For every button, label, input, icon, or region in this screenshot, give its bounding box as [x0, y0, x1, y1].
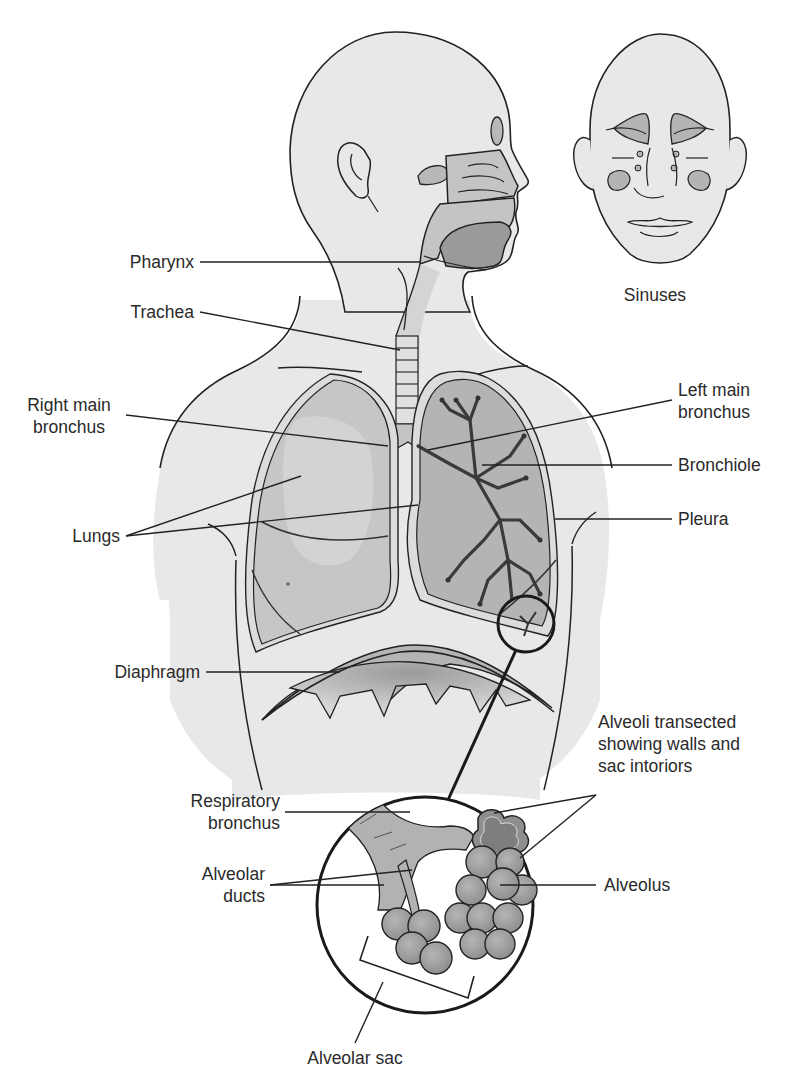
label-alveoli-transected: Alveoli transected showing walls and sac… [598, 711, 788, 777]
label-diaphragm: Diaphragm [40, 661, 200, 683]
respiratory-system-diagram: Pharynx Trachea Right main bronchus Lung… [0, 0, 790, 1079]
label-alveolar-sac: Alveolar sac [290, 1047, 420, 1069]
head-profile [290, 32, 528, 312]
label-lungs: Lungs [10, 525, 120, 547]
label-right-main-bronchus: Right main bronchus [4, 394, 134, 438]
alveoli-magnified-view [317, 790, 537, 1013]
leader-line-alveoli-transected-1 [494, 795, 596, 813]
label-alveolus: Alveolus [604, 874, 724, 896]
sinuses-face [574, 34, 747, 263]
leader-line-alveoli-transected-2 [520, 795, 596, 858]
label-alveolar-ducts: Alveolar ducts [100, 863, 265, 907]
label-sinuses: Sinuses [600, 284, 710, 306]
label-pharynx: Pharynx [60, 251, 194, 273]
label-respiratory-bronchus: Respiratory bronchus [100, 790, 280, 834]
label-trachea: Trachea [60, 301, 194, 323]
label-pleura: Pleura [678, 508, 788, 530]
label-bronchiole: Bronchiole [678, 454, 788, 476]
label-left-main-bronchus: Left main bronchus [678, 379, 788, 423]
